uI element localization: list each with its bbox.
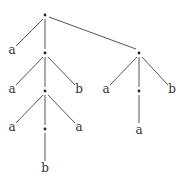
leaf-label: a (135, 123, 142, 137)
leaf-label: b (41, 161, 49, 175)
node-left-lower (44, 128, 47, 131)
edge-left-to-a (16, 57, 43, 85)
leaf-label: b (75, 82, 83, 96)
tree-edges (16, 17, 168, 161)
leaf-label: a (8, 120, 15, 134)
edge-right-to-b (142, 57, 168, 85)
node-left (44, 52, 47, 55)
leaf-label: a (8, 82, 15, 96)
edge-root-to-right-node (49, 17, 136, 49)
edge-mid-to-a (16, 95, 43, 123)
edge-left-to-b (48, 57, 75, 85)
tree-internal-nodes (44, 14, 141, 131)
node-left-mid (44, 90, 47, 93)
node-root (44, 14, 47, 17)
tree-diagram: a a b a b a a a b (0, 0, 184, 182)
leaf-label: b (168, 82, 176, 96)
leaf-label: a (75, 120, 82, 134)
leaf-label: a (8, 43, 15, 57)
tree-leaf-labels: a a b a b a a a b (8, 43, 176, 175)
edge-root-to-a (16, 19, 43, 46)
edge-right-to-a (110, 57, 137, 85)
node-right-mid (138, 90, 141, 93)
leaf-label: a (102, 82, 109, 96)
node-right (138, 52, 141, 55)
edge-mid-to-a2 (48, 95, 75, 123)
